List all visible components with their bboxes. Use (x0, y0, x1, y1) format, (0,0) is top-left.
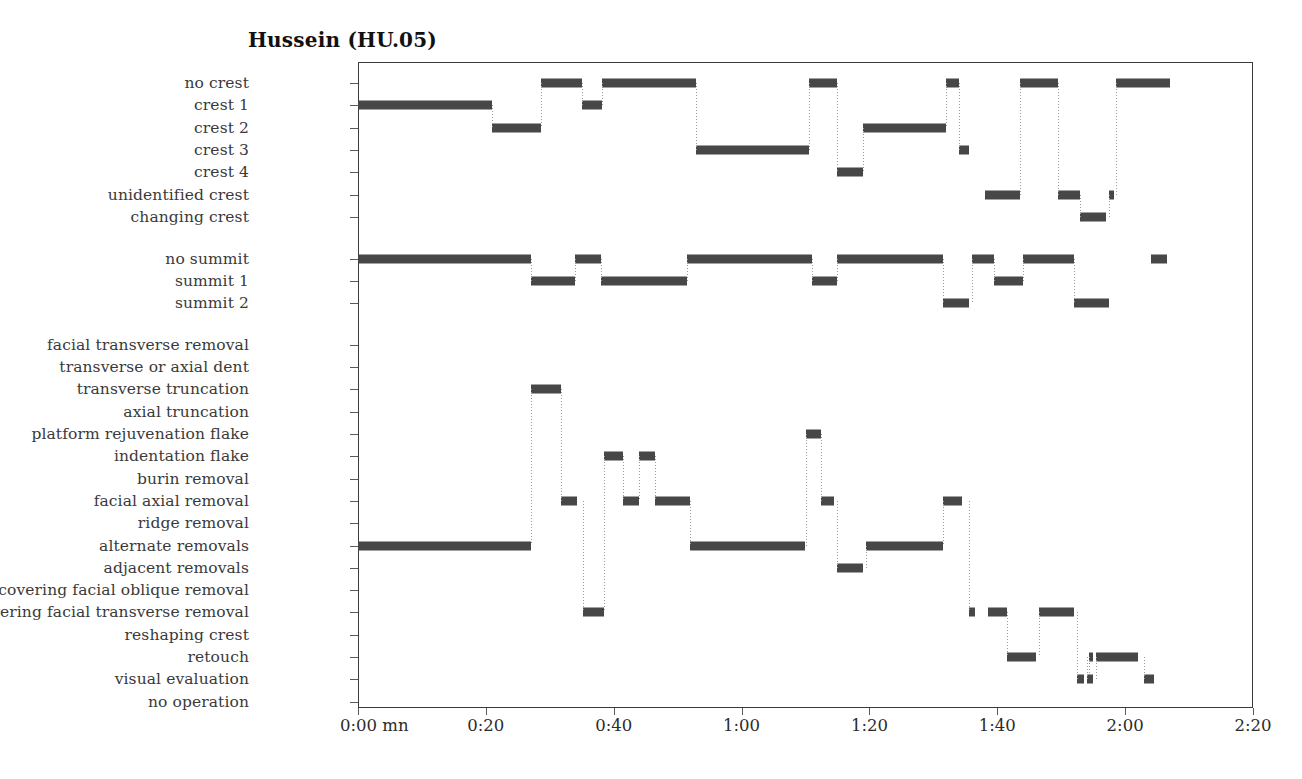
y-axis-label: changing crest (131, 208, 249, 226)
x-axis-tick (614, 708, 615, 715)
timeline-connector (601, 259, 602, 281)
segment-crest (1058, 190, 1080, 199)
plot-area (358, 62, 1253, 708)
timeline-connector (943, 501, 944, 546)
timeline-connector (837, 83, 838, 172)
y-axis-tick (350, 128, 358, 129)
x-axis-label: 1:40 (979, 716, 1016, 735)
timeline-connector (1080, 195, 1081, 217)
timeline-connector (1058, 83, 1059, 195)
y-axis-tick (350, 281, 358, 282)
timeline-connector (1039, 612, 1040, 657)
y-axis-tick (350, 635, 358, 636)
x-axis-label: 0:00 mn (340, 716, 409, 735)
y-axis-tick (350, 546, 358, 547)
segment-operation (561, 496, 576, 505)
segment-operation (531, 385, 562, 394)
segment-operation (623, 496, 639, 505)
timeline-connector (602, 83, 603, 105)
segment-summit (1023, 254, 1074, 263)
y-axis-label: platform rejuvenation flake (31, 425, 249, 443)
segment-summit (575, 254, 601, 263)
x-axis-label: 1:00 (723, 716, 760, 735)
segment-operation (806, 430, 822, 439)
segment-crest (582, 101, 602, 110)
timeline-connector (809, 83, 810, 150)
segment-crest (358, 101, 492, 110)
segment-operation (583, 608, 604, 617)
timeline-connector (1096, 657, 1097, 679)
segment-summit (358, 254, 531, 263)
timeline-connector (583, 501, 584, 613)
x-axis-label: 0:20 (467, 716, 504, 735)
y-axis-label: transverse or axial dent (59, 358, 249, 376)
segment-operation (1007, 653, 1036, 662)
segment-summit (812, 276, 838, 285)
y-axis-label: crest 1 (194, 96, 249, 114)
y-axis-label: crest 4 (194, 163, 249, 181)
timeline-connector (972, 259, 973, 304)
segment-crest (985, 190, 1020, 199)
segment-summit (837, 254, 942, 263)
segment-operation (866, 541, 943, 550)
timeline-connector (582, 83, 583, 105)
y-axis-label: axial truncation (123, 403, 249, 421)
timeline-connector (866, 546, 867, 568)
timeline-connector (531, 389, 532, 545)
segment-crest (602, 79, 695, 88)
y-axis-label: crest 3 (194, 141, 249, 159)
y-axis-tick (350, 389, 358, 390)
segment-summit (972, 254, 994, 263)
y-axis-tick (350, 105, 358, 106)
segment-operation (639, 452, 655, 461)
segment-summit (943, 299, 969, 308)
timeline-connector (969, 501, 970, 613)
segment-summit (994, 276, 1023, 285)
segment-operation (943, 496, 962, 505)
segment-crest (1080, 212, 1106, 221)
y-axis-tick (350, 217, 358, 218)
timeline-connector (837, 501, 838, 568)
timeline-connector (821, 434, 822, 501)
timeline-connector (1109, 195, 1110, 217)
segment-crest (863, 123, 946, 132)
y-axis-label: reshaping crest (125, 626, 249, 644)
timeline-connector (655, 456, 656, 501)
y-axis-label: visual evaluation (115, 670, 249, 688)
timeline-connector (946, 83, 947, 128)
y-axis-tick (350, 479, 358, 480)
x-axis-tick (997, 708, 998, 715)
segment-summit (1074, 299, 1109, 308)
y-axis-label: adjacent removals (104, 559, 249, 577)
timeline-connector (575, 259, 576, 281)
chart-root: Hussein (HU.05) no crestcrest 1crest 2cr… (0, 0, 1302, 779)
y-axis-tick (350, 83, 358, 84)
y-axis-label: summit 1 (175, 272, 249, 290)
y-axis-tick (350, 590, 358, 591)
timeline-connector (531, 259, 532, 281)
timeline-connector (1020, 83, 1021, 195)
y-axis-tick (350, 172, 358, 173)
y-axis-label: facial transverse removal (47, 336, 249, 354)
x-axis-label: 2:20 (1234, 716, 1271, 735)
y-axis-label: retouch (188, 648, 250, 666)
timeline-connector (863, 128, 864, 173)
y-axis-tick (350, 679, 358, 680)
y-axis-tick (350, 434, 358, 435)
segment-operation (655, 496, 690, 505)
timeline-connector (687, 259, 688, 281)
timeline-connector (1023, 259, 1024, 281)
x-axis-tick (1253, 708, 1254, 715)
y-axis-label: unidentified crest (108, 186, 249, 204)
y-axis-tick (350, 345, 358, 346)
segment-operation (358, 541, 531, 550)
timeline-connector (696, 83, 697, 150)
timeline-connector (604, 456, 605, 612)
timeline-connector (812, 259, 813, 281)
y-axis-tick (350, 150, 358, 151)
y-axis-label: no crest (185, 74, 250, 92)
timeline-connector (561, 389, 562, 501)
y-axis-label: facial axial removal (94, 492, 249, 510)
x-axis-label: 2:00 (1107, 716, 1144, 735)
y-axis-tick (350, 523, 358, 524)
